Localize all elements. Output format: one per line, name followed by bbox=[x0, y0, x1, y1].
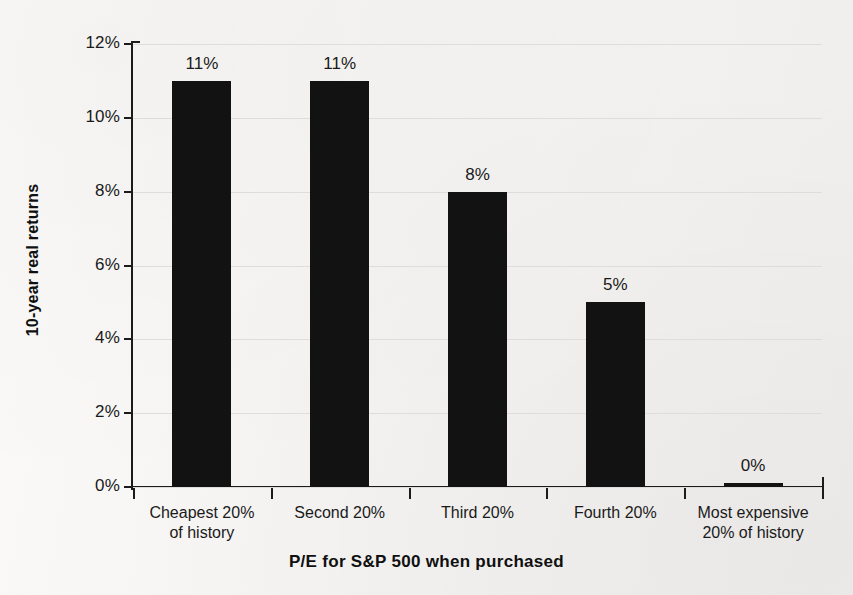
x-axis-tick-mark bbox=[133, 488, 135, 499]
y-axis-title: 10-year real returns bbox=[24, 150, 42, 370]
bar[interactable] bbox=[724, 483, 783, 487]
x-axis-category-label: Third 20% bbox=[398, 503, 558, 523]
gridline bbox=[133, 118, 822, 119]
x-axis-tick-mark bbox=[546, 488, 548, 499]
bar-value-label: 5% bbox=[570, 275, 660, 295]
x-axis-tick-mark bbox=[409, 488, 411, 499]
bar[interactable] bbox=[586, 302, 645, 487]
y-axis-tick-label: 6% bbox=[50, 255, 120, 275]
x-axis-category-label: Most expensive20% of history bbox=[673, 503, 833, 543]
x-axis-tick-mark bbox=[271, 488, 273, 499]
gridline bbox=[133, 44, 822, 45]
x-axis-category-label: Cheapest 20%of history bbox=[122, 503, 282, 543]
x-axis-title: P/E for S&P 500 when purchased bbox=[0, 552, 853, 572]
bar[interactable] bbox=[310, 81, 369, 487]
bar-value-label: 11% bbox=[295, 54, 385, 74]
y-axis-tick-label: 0% bbox=[50, 476, 120, 496]
x-axis-category-label-line: 20% of history bbox=[673, 523, 833, 543]
x-axis-category-label: Second 20% bbox=[260, 503, 420, 523]
x-axis-category-label-line: Cheapest 20% bbox=[122, 503, 282, 523]
bar-value-label: 11% bbox=[157, 54, 247, 74]
x-axis-category-label: Fourth 20% bbox=[535, 503, 695, 523]
bar-value-label: 8% bbox=[433, 165, 523, 185]
y-axis-top-cap bbox=[131, 41, 140, 43]
x-axis-category-label-line: Most expensive bbox=[673, 503, 833, 523]
x-axis-category-label-line: of history bbox=[122, 523, 282, 543]
x-axis-category-label-line: Second 20% bbox=[260, 503, 420, 523]
x-axis-end-cap bbox=[822, 477, 824, 488]
y-axis-tick-label: 8% bbox=[50, 181, 120, 201]
y-axis-tick-label: 12% bbox=[50, 33, 120, 53]
bar-value-label: 0% bbox=[708, 456, 798, 476]
y-axis-tick-label: 2% bbox=[50, 402, 120, 422]
x-axis-tick-mark bbox=[822, 488, 824, 499]
x-axis-tick-mark bbox=[684, 488, 686, 499]
y-axis-tick-label: 4% bbox=[50, 328, 120, 348]
bar-chart-figure: 10-year real returns 0%2%4%6%8%10%12% 11… bbox=[0, 0, 853, 595]
y-axis-tick-label: 10% bbox=[50, 107, 120, 127]
gridline bbox=[133, 487, 822, 488]
x-axis-category-label-line: Third 20% bbox=[398, 503, 558, 523]
bar[interactable] bbox=[448, 192, 507, 487]
plot-area bbox=[133, 44, 822, 487]
bar[interactable] bbox=[172, 81, 231, 487]
x-axis-category-label-line: Fourth 20% bbox=[535, 503, 695, 523]
